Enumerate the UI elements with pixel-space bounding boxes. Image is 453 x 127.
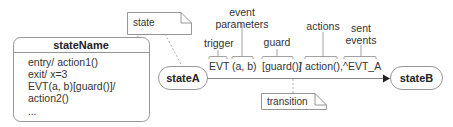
trigger-bracket (209, 57, 227, 60)
slash-text: / (299, 60, 302, 72)
internal-line-action: action2() (28, 92, 69, 104)
annotation-trigger: trigger (204, 37, 234, 49)
internal-line-entry: entry/ action1() (28, 56, 98, 68)
sent-events-text: ^EVT_A (343, 60, 381, 72)
annotation-guard: guard (264, 36, 291, 48)
trigger-text: EVT (209, 60, 230, 72)
guard-bracket (262, 57, 293, 60)
state-b: stateB (391, 67, 443, 90)
state-note: state (128, 13, 192, 35)
transition-label: EVT (a, b) [guard()] / action(), ^EVT_A (209, 60, 381, 72)
actions-text: action(), (305, 60, 343, 72)
annotation-event: event (229, 6, 255, 18)
guard-text: [guard()] (262, 60, 302, 72)
sent-bracket (344, 57, 376, 60)
statename-title: stateName (53, 39, 109, 51)
note-connector-to-statea (165, 34, 182, 66)
internal-line-transition: EVT(a, b)[guard()]/ (28, 80, 116, 92)
annotation-sent: sent (351, 22, 371, 34)
internal-line-ellipsis: ... (28, 106, 36, 117)
annotation-parameters: parameters (215, 18, 268, 30)
transition-note-label: transition (267, 96, 308, 107)
state-b-label: stateB (400, 72, 434, 84)
params-bracket (232, 57, 253, 60)
state-diagram-canvas: state stateName entry/ action1() exit/ x… (0, 0, 453, 127)
state-a: stateA (159, 67, 208, 90)
state-a-label: stateA (166, 72, 200, 84)
annotation-actions: actions (306, 20, 339, 32)
transition-note: transition (262, 94, 327, 110)
statename-box: stateName entry/ action1() exit/ x=3 EVT… (14, 38, 150, 122)
actions-bracket (305, 57, 337, 60)
params-text: (a, b) (232, 60, 257, 72)
arrowhead-icon (383, 75, 390, 83)
annotation-events: events (346, 34, 377, 46)
internal-line-exit: exit/ x=3 (28, 68, 68, 80)
state-note-label: state (133, 17, 155, 28)
